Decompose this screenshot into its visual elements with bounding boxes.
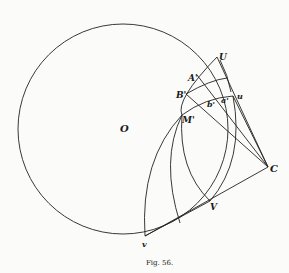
label-B: B' <box>175 90 186 100</box>
label-b: b' <box>207 99 215 109</box>
label-M: M' <box>181 115 195 125</box>
label-u: u <box>237 91 243 101</box>
geometry-figure: O U A' B' M' b' a' u C V v Fig. 56. <box>0 0 289 273</box>
line-A-C <box>197 75 268 167</box>
arc-M-v <box>144 115 182 236</box>
label-O: O <box>120 123 129 134</box>
label-V: V <box>210 202 218 212</box>
arc-inner <box>170 115 182 223</box>
arc-u-V <box>210 96 236 201</box>
arc-M-V <box>182 115 210 201</box>
label-A: A' <box>187 73 198 83</box>
line-V-v <box>145 201 210 236</box>
label-C: C <box>270 163 278 174</box>
label-U: U <box>219 52 228 62</box>
line-u-C <box>233 96 268 167</box>
label-v: v <box>142 239 147 249</box>
figure-caption: Fig. 56. <box>146 259 173 267</box>
label-a: a' <box>221 95 229 105</box>
